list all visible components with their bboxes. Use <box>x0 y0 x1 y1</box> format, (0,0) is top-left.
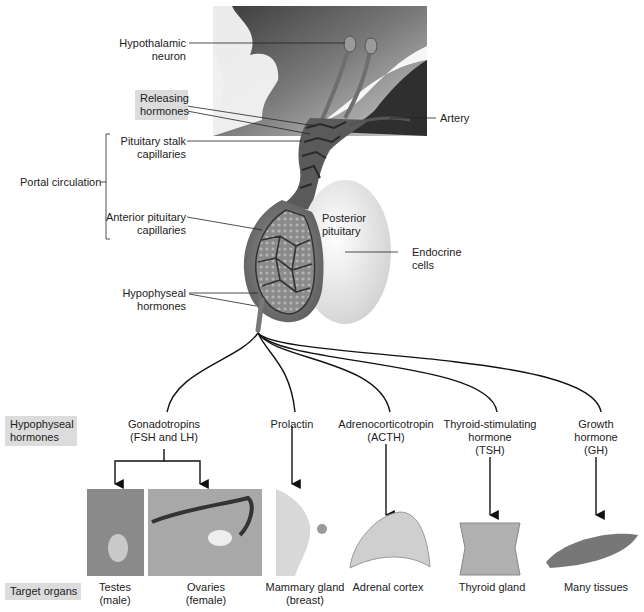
hormone-gh: Growth hormone (GH) <box>566 418 626 457</box>
thyroid-illustration <box>460 523 520 575</box>
label-posterior-pituitary: Posterior pituitary <box>322 212 366 238</box>
hormone-acth: Adrenocorticotropin (ACTH) <box>336 418 436 444</box>
label-pituitary-stalk-capillaries: Pituitary stalk capillaries <box>90 135 186 161</box>
target-organ-illustrations <box>87 489 638 576</box>
label-anterior-pituitary-capillaries: Anterior pituitary capillaries <box>80 211 186 237</box>
target-many-tissues: Many tissues <box>556 581 636 594</box>
target-ovaries: Ovaries (female) <box>166 581 246 607</box>
label-releasing-hormones: Releasing hormones <box>135 90 188 120</box>
hormone-prolactin: Prolactin <box>262 418 322 431</box>
pituitary-diagram <box>0 0 644 612</box>
label-hypophyseal-hormones-top: Hypophyseal hormones <box>100 287 186 313</box>
ovaries-illustration <box>148 489 262 576</box>
label-hypothalamic-neuron: Hypothalamic neuron <box>90 37 186 63</box>
label-artery: Artery <box>440 112 469 125</box>
label-portal-circulation: Portal circulation <box>20 176 101 189</box>
label-endocrine-cells: Endocrine cells <box>412 246 462 272</box>
hormone-tsh: Thyroid-stimulating hormone (TSH) <box>440 418 540 457</box>
hypothalamus-illustration <box>213 6 427 136</box>
target-testes: Testes (male) <box>85 581 145 607</box>
row-label-target-organs: Target organs <box>5 583 81 600</box>
target-adrenal-cortex: Adrenal cortex <box>348 581 428 594</box>
muscle-illustration <box>546 534 638 568</box>
testes-illustration <box>87 489 144 576</box>
target-mammary-gland: Mammary gland (breast) <box>262 581 348 607</box>
target-thyroid-gland: Thyroid gland <box>452 581 532 594</box>
hormone-branch-lines <box>167 333 601 412</box>
anterior-pituitary-illustration <box>244 200 324 322</box>
mammary-illustration <box>276 489 310 576</box>
hormone-gonadotropins: Gonadotropins (FSH and LH) <box>114 418 214 444</box>
row-label-hypophyseal-hormones: Hypophyseal hormones <box>5 416 77 446</box>
adrenal-illustration <box>350 512 430 568</box>
